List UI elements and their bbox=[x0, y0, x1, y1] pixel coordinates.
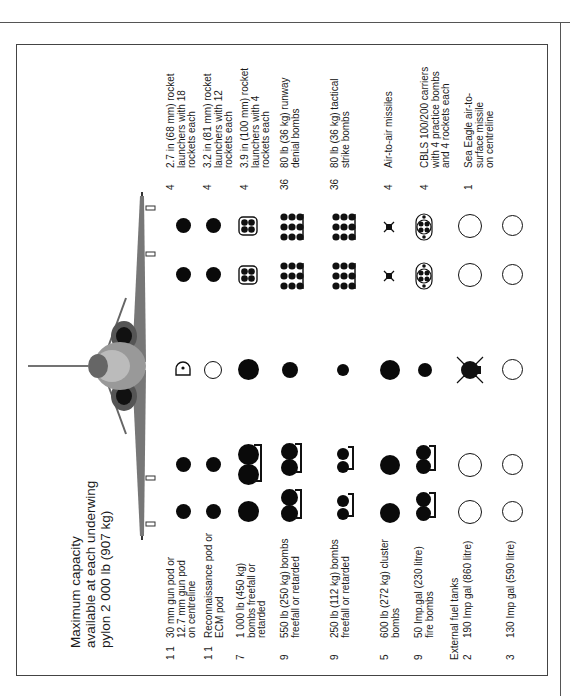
label-qty: 2 bbox=[463, 638, 474, 660]
tactical-strike-rack-icon bbox=[331, 212, 357, 242]
label-desc: 3.2 in (81 mm) rocket launchers with 12 … bbox=[203, 74, 235, 168]
fuel-tank-190 bbox=[458, 500, 482, 524]
label-runway-denial: 3680 lb (36 kg) runway denial bombs bbox=[280, 77, 301, 190]
label-qty: 4 bbox=[420, 168, 431, 190]
air-to-air-missile-icon bbox=[382, 269, 396, 283]
recon-pod-store bbox=[206, 457, 221, 472]
runway-denial-rack-icon bbox=[279, 261, 305, 291]
harrier-front-view-icon bbox=[24, 186, 174, 546]
label-sea-eagle: 1Sea Eagle air-to- surface missile on ce… bbox=[464, 93, 496, 190]
label-desc: CBLS 100/200 carriers with 4 practice bo… bbox=[420, 67, 452, 168]
label-fuel-tanks-heading: External fuel tanks bbox=[450, 578, 461, 660]
bomb-250lb bbox=[337, 364, 349, 376]
fire-bomb bbox=[418, 363, 432, 377]
cbls-carrier-icon bbox=[414, 262, 434, 290]
twin-carrier-bracket bbox=[295, 443, 302, 473]
label-1000lb-bombs: 71 000 lb (450 kg) bombs freefall or ret… bbox=[236, 563, 268, 660]
label-desc: 3.9 in (100 mm) rocket launchers with 4 … bbox=[240, 68, 272, 168]
fuel-tank-130 bbox=[502, 454, 523, 475]
fuel-tank-190 bbox=[458, 263, 482, 287]
label-tank-190: 2190 Imp gal (860 litre) bbox=[463, 541, 474, 660]
bomb-1000lb bbox=[238, 359, 259, 380]
label-desc: Air-to-air missiles bbox=[384, 91, 395, 168]
label-gun-pod: 1 130 mm gun pod or 12.7 mm gun pod on c… bbox=[166, 557, 198, 660]
label-rocket-100: 43.9 in (100 mm) rocket launchers with 4… bbox=[240, 68, 272, 190]
label-desc: 190 Imp gal (860 litre) bbox=[463, 541, 474, 638]
label-550lb-bombs: 9550 lb (250 kg) bombs freefall or retar… bbox=[280, 538, 301, 660]
tactical-strike-rack-icon bbox=[331, 261, 357, 291]
label-desc: 250 lb (112 kg) bombs freefall or retard… bbox=[330, 539, 351, 638]
label-rocket-68: 42.7 in (68 mm) rocket launchers with 18… bbox=[166, 74, 198, 190]
label-desc: 80 lb (36 kg) runway denial bombs bbox=[280, 77, 301, 168]
label-250lb-bombs: 9250 lb (112 kg) bombs freefall or retar… bbox=[330, 539, 351, 660]
twin-carrier-bracket bbox=[429, 445, 436, 471]
label-aam: 4Air-to-air missiles bbox=[384, 91, 395, 190]
label-tank-130: 3130 Imp gal (590 litre) bbox=[506, 541, 517, 660]
twin-carrier-bracket bbox=[348, 446, 354, 470]
fuel-tank-130 bbox=[502, 501, 523, 522]
twin-carrier-bracket bbox=[429, 492, 436, 518]
label-desc: 130 Imp gal (590 litre) bbox=[506, 541, 517, 638]
rocket-pod-store bbox=[176, 267, 191, 282]
rocket-launcher-4-icon bbox=[238, 216, 258, 236]
bomb-550lb bbox=[282, 362, 298, 378]
label-qty: 7 bbox=[236, 638, 247, 660]
runway-denial-rack-icon bbox=[279, 212, 305, 242]
rocket-launcher-4-icon bbox=[238, 265, 258, 285]
label-qty: 9 bbox=[330, 638, 341, 660]
rocket-pod-store bbox=[206, 218, 221, 233]
label-cbls: 4CBLS 100/200 carriers with 4 practice b… bbox=[420, 67, 452, 190]
label-desc: 1 000 lb (450 kg) bombs freefall or reta… bbox=[236, 563, 268, 638]
air-to-air-missile-icon bbox=[382, 220, 396, 234]
fuel-tank-130 bbox=[502, 264, 523, 285]
fuel-tank-190 bbox=[458, 453, 482, 477]
label-qty: 4 bbox=[203, 168, 214, 190]
label-desc: 550 lb (250 kg) bombs freefall or retard… bbox=[280, 538, 301, 638]
label-qty: 3 bbox=[506, 638, 517, 660]
label-desc: 2.7 in (68 mm) rocket launchers with 18 … bbox=[166, 74, 198, 168]
fuel-tank-190 bbox=[458, 214, 482, 238]
label-tactical-strike: 3680 lb (36 kg) tactical strike bombs bbox=[330, 79, 351, 191]
label-qty: 4 bbox=[240, 168, 251, 190]
rocket-pod-store bbox=[206, 267, 221, 282]
cluster-bomb bbox=[380, 360, 400, 380]
label-qty: 36 bbox=[330, 168, 341, 190]
fuel-tank-130 bbox=[502, 359, 523, 380]
centreline-recon-pod bbox=[204, 361, 222, 379]
label-cluster-bombs: 5600 lb (272 kg) cluster bombs bbox=[380, 539, 401, 660]
label-fire-bombs: 950 Imp.gal (230 litre) fire bombs bbox=[414, 546, 435, 660]
sea-eagle-missile-icon bbox=[454, 354, 486, 386]
twin-carrier-bracket bbox=[348, 493, 354, 517]
label-desc: External fuel tanks bbox=[450, 578, 461, 660]
bomb-1000lb bbox=[238, 501, 259, 522]
centreline-gun-pod-icon bbox=[174, 360, 192, 378]
label-qty: 36 bbox=[280, 168, 291, 190]
label-recon-pod: 1 1Reconnaissance pod or ECM pod bbox=[204, 533, 225, 660]
label-qty: 1 bbox=[464, 168, 475, 190]
rocket-pod-store bbox=[176, 218, 191, 233]
label-desc: 50 Imp.gal (230 litre) fire bombs bbox=[414, 546, 435, 638]
cbls-carrier-icon bbox=[414, 213, 434, 241]
label-desc: Sea Eagle air-to- surface missile on cen… bbox=[464, 93, 496, 168]
label-desc: 80 lb (36 kg) tactical strike bombs bbox=[330, 79, 351, 169]
fuel-tank-130 bbox=[502, 215, 523, 236]
label-qty: 1 1 bbox=[204, 638, 215, 660]
twin-carrier-bracket bbox=[295, 489, 302, 519]
label-qty: 9 bbox=[280, 638, 291, 660]
label-rocket-81: 43.2 in (81 mm) rocket launchers with 12… bbox=[203, 74, 235, 190]
recon-pod-store bbox=[206, 504, 221, 519]
label-desc: Reconnaissance pod or ECM pod bbox=[204, 533, 225, 638]
label-desc: 30 mm gun pod or 12.7 mm gun pod on cent… bbox=[166, 557, 198, 638]
label-qty: 5 bbox=[380, 638, 391, 660]
gun-pod-store bbox=[176, 457, 191, 472]
cluster-bomb bbox=[380, 455, 400, 475]
cluster-bomb bbox=[380, 503, 400, 523]
stores-diagram: Maximum capacity available at each under… bbox=[0, 0, 570, 696]
label-desc: 600 lb (272 kg) cluster bombs bbox=[380, 539, 401, 638]
label-qty: 1 1 bbox=[166, 638, 177, 660]
label-qty: 4 bbox=[384, 168, 395, 190]
label-qty: 9 bbox=[414, 638, 425, 660]
twin-carrier-bracket bbox=[254, 444, 262, 482]
gun-pod-store bbox=[176, 504, 191, 519]
